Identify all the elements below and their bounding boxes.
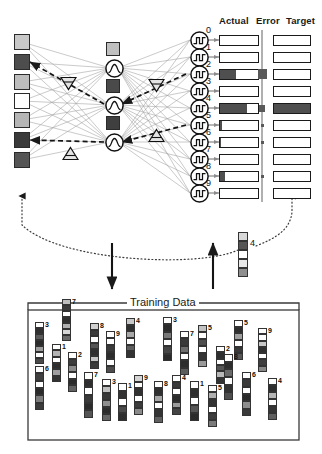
training-sample-segment <box>234 340 243 347</box>
output-digit-label-2: 2 <box>206 59 211 69</box>
training-sample-segment <box>35 366 44 373</box>
hidden-output-connections <box>118 40 190 193</box>
triangle-down-icon <box>149 80 164 92</box>
actual-fill-8 <box>220 172 225 181</box>
training-sample-segment <box>102 414 111 421</box>
training-sample-bar <box>224 354 233 400</box>
training-sample-segment <box>154 381 163 388</box>
training-sample-segment <box>163 346 172 353</box>
input-unit-2 <box>14 74 30 90</box>
target-bar-2 <box>273 69 311 80</box>
training-sample-bar <box>62 299 71 341</box>
training-sample-bar <box>102 379 111 421</box>
actual-bar-6 <box>219 137 259 148</box>
training-sample-segment <box>102 400 111 407</box>
training-sample-segment <box>268 413 277 420</box>
error-mark-6 <box>261 141 264 144</box>
target-bar-9 <box>273 188 311 199</box>
training-sample-segment <box>52 376 61 382</box>
training-sample-label: 1 <box>200 380 204 387</box>
training-sample-segment <box>198 332 207 339</box>
training-sample-bar <box>242 372 251 416</box>
training-sample-segment <box>242 379 251 386</box>
target-bar-3 <box>273 86 311 97</box>
training-sample-segment <box>208 392 217 399</box>
training-sample-segment <box>208 420 217 427</box>
training-sample-segment <box>163 354 172 361</box>
training-sample-segment <box>106 359 115 366</box>
training-sample-segment <box>126 338 135 345</box>
training-sample-label: 3 <box>112 378 116 385</box>
training-sample-segment <box>106 345 115 352</box>
actual-bar-9 <box>219 188 259 199</box>
training-sample-segment <box>134 382 143 389</box>
training-sample-segment <box>180 353 189 360</box>
training-sample-segment <box>172 395 181 402</box>
training-sample-segment <box>208 399 217 406</box>
training-sample-segment <box>180 338 189 345</box>
actual-bar-0 <box>219 35 259 46</box>
triangle-up-icon <box>149 130 164 142</box>
training-sample-segment <box>224 377 233 385</box>
training-sample-segment <box>268 399 277 406</box>
feedback-sample-bar <box>238 232 248 277</box>
training-feedback-loops <box>22 196 292 260</box>
training-sample-label: 5 <box>218 384 222 391</box>
training-sample-segment <box>172 382 181 389</box>
output-digit-label-8: 8 <box>206 161 211 171</box>
feedback-sample-segment-3 <box>238 259 248 268</box>
training-sample-segment <box>126 318 135 325</box>
hidden-unit-square-1 <box>106 79 120 93</box>
training-sample-segment <box>84 380 93 388</box>
training-sample-label: 1 <box>62 343 66 350</box>
input-unit-4 <box>14 112 30 128</box>
training-sample-segment <box>224 392 233 400</box>
training-sample-segment <box>154 402 163 409</box>
training-sample-segment <box>234 327 243 334</box>
target-bar-5 <box>273 120 311 131</box>
training-sample-segment <box>102 379 111 386</box>
feedback-sample-segment-2 <box>238 250 248 259</box>
hidden-unit-square-2 <box>106 116 120 130</box>
training-sample-segment <box>242 401 251 408</box>
training-sample-segment <box>224 362 233 370</box>
feedback-sample-segment-1 <box>238 241 248 250</box>
training-sample-segment <box>68 359 77 366</box>
training-sample-bar <box>198 325 207 367</box>
actual-column-header: Actual <box>219 15 249 26</box>
training-sample-segment <box>134 395 143 402</box>
training-sample-segment <box>118 413 127 421</box>
training-sample-label: 4 <box>278 377 282 384</box>
output-digit-label-7: 7 <box>206 144 211 154</box>
training-sample-segment <box>90 362 99 369</box>
training-sample-segment <box>198 325 207 332</box>
training-sample-label: 8 <box>164 380 168 387</box>
training-sample-segment <box>208 413 217 420</box>
training-sample-segment <box>35 373 44 380</box>
training-sample-segment <box>208 406 217 413</box>
training-sample-segment <box>268 378 277 385</box>
error-mark-8 <box>261 175 264 178</box>
actual-bar-1 <box>219 52 259 63</box>
training-sample-segment <box>102 407 111 414</box>
training-sample-label: 8 <box>100 322 104 329</box>
training-sample-segment <box>180 331 189 338</box>
training-sample-segment <box>163 332 172 339</box>
training-sample-segment <box>242 372 251 379</box>
training-sample-segment <box>134 375 143 382</box>
error-mark-4 <box>259 105 265 112</box>
actual-fill-5 <box>220 121 222 130</box>
training-sample-segment <box>84 372 93 380</box>
backprop-marker-1 <box>148 78 165 93</box>
training-sample-segment <box>224 369 233 377</box>
training-sample-bar <box>180 331 189 375</box>
training-sample-segment <box>163 324 172 331</box>
training-data-title: Training Data <box>130 296 196 308</box>
training-sample-segment <box>126 345 135 352</box>
training-sample-label: 6 <box>252 371 256 378</box>
training-sample-bar <box>258 328 267 372</box>
error-column-header: Error <box>256 15 280 26</box>
input-unit-3 <box>14 93 30 109</box>
training-sample-segment <box>106 331 115 338</box>
training-sample-segment <box>172 388 181 395</box>
